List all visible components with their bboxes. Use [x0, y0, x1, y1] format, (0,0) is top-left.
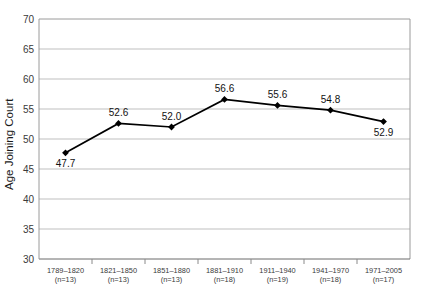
y-axis-tick-label: 45 — [23, 164, 35, 175]
x-axis-category-label: 1821–1850 — [100, 266, 137, 275]
data-value-label: 52.9 — [374, 127, 394, 138]
y-axis-tick-label: 70 — [23, 14, 35, 25]
x-axis-category-count: (n=18) — [320, 275, 342, 284]
x-axis-category-count: (n=13) — [108, 275, 130, 284]
x-axis-category-label: 1971–2005 — [365, 266, 402, 275]
x-axis-category-label: 1941–1970 — [312, 266, 349, 275]
x-axis-category-label: 1789–1820 — [47, 266, 84, 275]
y-axis-tick-label: 50 — [23, 134, 35, 145]
data-value-label: 52.6 — [109, 107, 129, 118]
x-axis-category-label: 1881–1910 — [206, 266, 243, 275]
data-value-label: 52.0 — [162, 111, 182, 122]
data-value-label: 54.8 — [321, 94, 341, 105]
data-value-label: 55.6 — [268, 89, 288, 100]
y-axis-tick-labels: 706560555045403530 — [23, 14, 35, 265]
y-axis-tick-label: 35 — [23, 224, 35, 235]
x-axis-category-labels: 1789–1820(n=13)1821–1850(n=13)1851–1880(… — [47, 266, 402, 284]
x-axis-category-count: (n=13) — [55, 275, 77, 284]
y-axis-tick-label: 30 — [23, 254, 35, 265]
x-axis-category-count: (n=18) — [214, 275, 236, 284]
category-ticks — [92, 259, 357, 264]
x-axis-category-count: (n=19) — [267, 275, 289, 284]
x-axis-category-label: 1851–1880 — [153, 266, 190, 275]
x-axis-category-count: (n=17) — [373, 275, 395, 284]
y-axis-tick-label: 40 — [23, 194, 35, 205]
x-axis-category-count: (n=13) — [161, 275, 183, 284]
data-value-label: 56.6 — [215, 83, 235, 94]
data-value-label: 47.7 — [56, 158, 76, 169]
y-axis-tick-label: 55 — [23, 104, 35, 115]
y-axis-tick-label: 65 — [23, 44, 35, 55]
y-axis-tick-label: 60 — [23, 74, 35, 85]
chart-canvas: 706560555045403530 47.752.652.056.655.65… — [0, 0, 421, 285]
x-axis-category-label: 1911–1940 — [259, 266, 295, 275]
line-chart: 706560555045403530 47.752.652.056.655.65… — [0, 0, 421, 285]
y-axis-title: Age Joining Court — [3, 98, 15, 190]
